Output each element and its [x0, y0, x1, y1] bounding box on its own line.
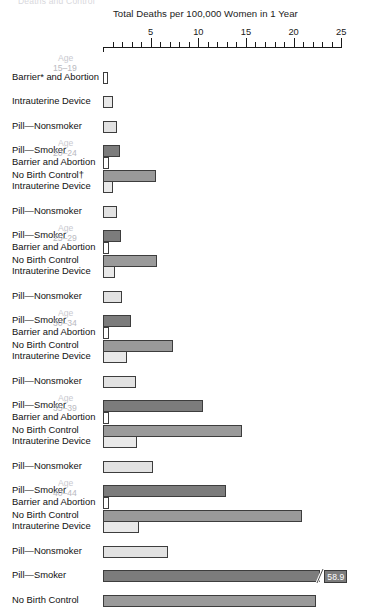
bar	[103, 291, 122, 303]
bar	[103, 546, 168, 558]
age-group-word: Age	[58, 308, 73, 318]
bar-row-label: Barrier and Abortion	[12, 411, 172, 422]
bar	[103, 121, 117, 133]
axis-tick-minor	[332, 42, 333, 47]
x-axis: 510152025	[0, 31, 370, 53]
bar-row: No Birth Control	[0, 595, 370, 607]
axis-tick-minor	[255, 42, 256, 47]
bar	[103, 521, 139, 533]
bar-row-label: Intrauterine Device	[12, 435, 172, 446]
bar	[103, 461, 153, 473]
bar-row-label: Pill—Nonsmoker	[12, 375, 172, 386]
bar-row-label: Barrier* and Abortion	[12, 71, 172, 82]
axis-tick-minor	[322, 42, 323, 47]
bar	[103, 570, 320, 582]
age-group-word: Age	[58, 478, 73, 488]
cut-off-heading: Deaths and Control	[18, 0, 95, 6]
bar	[103, 497, 109, 509]
axis-tick-minor	[141, 42, 142, 47]
axis-tick-label: 15	[241, 27, 251, 37]
axis-tick-minor	[160, 42, 161, 47]
bar	[103, 157, 109, 169]
axis-tick-label: 20	[288, 27, 298, 37]
bar-row: Barrier and Abortion	[0, 497, 370, 509]
axis-tick-major	[294, 38, 295, 47]
age-group: Age40–44Barrier and AbortionIntrauterine…	[0, 478, 370, 563]
axis-tick-major	[198, 38, 199, 47]
axis-tick-label: 10	[193, 27, 203, 37]
bar-row-list: Barrier and AbortionIntrauterine DeviceP…	[0, 497, 370, 558]
bar-row: Pill—Nonsmoker	[0, 206, 370, 218]
bar-row: Intrauterine Device	[0, 351, 370, 363]
bar-row: Intrauterine Device	[0, 181, 370, 193]
bar	[103, 412, 109, 424]
bar-row: Barrier and Abortion	[0, 327, 370, 339]
bar-row-list: Barrier and AbortionIntrauterine DeviceP…	[0, 412, 370, 473]
bar-row: Intrauterine Device	[0, 96, 370, 108]
bar-row: Pill—Nonsmoker	[0, 461, 370, 473]
axis-tick-major	[246, 38, 247, 47]
axis-tick-minor	[236, 42, 237, 47]
bar-row: Barrier and Abortion	[0, 412, 370, 424]
axis-tick-minor	[113, 42, 114, 47]
age-group: Age25–29Barrier and AbortionIntrauterine…	[0, 223, 370, 308]
axis-tick-minor	[103, 47, 104, 52]
age-group: Age35–39Barrier and AbortionIntrauterine…	[0, 393, 370, 478]
age-group-word: Age	[58, 53, 73, 63]
bar-row-label: Barrier and Abortion	[12, 241, 172, 252]
bar-row: Intrauterine Device	[0, 266, 370, 278]
bar-row-label: Intrauterine Device	[12, 180, 172, 191]
bar-row-list: Barrier and AbortionIntrauterine DeviceP…	[0, 327, 370, 388]
axis-tick-minor	[217, 42, 218, 47]
axis-tick-minor	[265, 42, 266, 47]
bar	[103, 266, 115, 278]
axis-tick-major	[151, 38, 152, 47]
bar-row-label: Pill—Nonsmoker	[12, 205, 172, 216]
axis-line	[103, 47, 342, 48]
bar	[103, 595, 316, 607]
bar-row-list: Barrier and AbortionIntrauterine DeviceP…	[0, 242, 370, 303]
age-group: Age20–24Barrier and AbortionIntrauterine…	[0, 138, 370, 223]
axis-tick-label: 5	[148, 27, 153, 37]
bar-row-label: Barrier and Abortion	[12, 496, 172, 507]
bar-row-label: Barrier and Abortion	[12, 326, 172, 337]
bar-value-label: 58.9	[324, 570, 347, 583]
bar-row-label: Intrauterine Device	[12, 520, 172, 531]
bar-row: Intrauterine Device	[0, 521, 370, 533]
bar-row: Barrier and Abortion	[0, 157, 370, 169]
bar-row: Intrauterine Device	[0, 436, 370, 448]
axis-tick-minor	[132, 42, 133, 47]
axis-tick-minor	[189, 42, 190, 47]
axis-tick-minor	[122, 42, 123, 47]
axis-tick-minor	[303, 42, 304, 47]
axis-tick-minor	[284, 42, 285, 47]
bar-row-label: Intrauterine Device	[12, 350, 172, 361]
axis-tick-minor	[313, 42, 314, 47]
bar-row-label: Barrier and Abortion	[12, 156, 172, 167]
axis-title: Total Deaths per 100,000 Women in 1 Year	[113, 8, 298, 19]
bar	[103, 327, 109, 339]
bar-row-label: Intrauterine Device	[12, 95, 172, 106]
age-group-word: Age	[58, 138, 73, 148]
bar-row: Pill—Nonsmoker	[0, 376, 370, 388]
bar	[103, 72, 108, 84]
axis-tick-label: 25	[336, 27, 346, 37]
bar	[103, 206, 117, 218]
bar-row-list: Barrier and AbortionIntrauterine DeviceP…	[0, 157, 370, 218]
bar-row: Pill—Smoker58.9	[0, 570, 370, 582]
bar-row: Barrier and Abortion	[0, 242, 370, 254]
bar	[103, 351, 127, 363]
axis-tick-minor	[170, 42, 171, 47]
age-group-word: Age	[58, 393, 73, 403]
bar	[103, 376, 136, 388]
axis-tick-minor	[208, 42, 209, 47]
bar	[103, 96, 113, 108]
age-group: Age30–34Barrier and AbortionIntrauterine…	[0, 308, 370, 393]
bar-row: Barrier* and Abortion	[0, 72, 370, 84]
bar-row-label: Intrauterine Device	[12, 265, 172, 276]
bar-row: Pill—Nonsmoker	[0, 291, 370, 303]
age-group: Age15–19Barrier* and AbortionIntrauterin…	[0, 53, 370, 138]
bar-row-label: Pill—Nonsmoker	[12, 290, 172, 301]
bar	[103, 242, 109, 254]
